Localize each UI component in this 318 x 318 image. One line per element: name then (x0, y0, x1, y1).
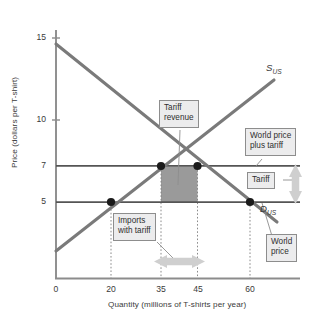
callout-world-price-plus-tariff-line2: plus tariff (250, 141, 291, 151)
callout-tariff-revenue: Tariff revenue (159, 100, 199, 128)
tariff-revenue-region (161, 167, 198, 203)
y-tick-15: 15 (28, 32, 46, 42)
x-tick-0: 0 (43, 284, 69, 294)
callout-world-price: World price (266, 234, 297, 262)
callout-world-price-line1: World (271, 237, 292, 247)
supply-curve-label: SUS (266, 62, 282, 75)
x-axis-title: Quantity (millions of T-shirts per year) (108, 300, 246, 309)
callout-tariff-revenue-line1: Tariff (164, 103, 194, 113)
tariff-diagram-svg (0, 0, 318, 318)
callout-world-price-plus-tariff-line1: World price (250, 131, 291, 141)
callout-world-price-line2: price (271, 247, 292, 257)
demand-curve-label-text: D (260, 203, 267, 214)
x-tick-35: 35 (148, 284, 174, 294)
plot-area (56, 30, 276, 278)
callout-imports-with-tariff: Imports with tariff (113, 213, 156, 241)
y-tick-5: 5 (28, 196, 46, 206)
y-tick-7: 7 (28, 160, 46, 170)
callout-world-price-plus-tariff: World price plus tariff (245, 128, 296, 156)
point-supply-with-tariff (157, 162, 165, 170)
callout-imports-with-tariff-line2: with tariff (118, 226, 151, 236)
point-demand-world-price (246, 198, 254, 206)
point-supply-world-price (107, 198, 115, 206)
y-tick-10: 10 (28, 114, 46, 124)
tariff-span-arrow (289, 164, 302, 204)
demand-curve-label-sub: US (267, 209, 276, 216)
x-tick-60: 60 (237, 284, 263, 294)
figure-canvas: Price (dollars per T-shirt) Quantity (mi… (0, 0, 318, 318)
callout-tariff: Tariff (247, 172, 275, 189)
callout-imports-with-tariff-line1: Imports (118, 216, 151, 226)
callout-tariff-line1: Tariff (252, 175, 270, 185)
x-tick-45: 45 (185, 284, 211, 294)
demand-curve-label: DUS (260, 203, 276, 216)
y-axis-title: Price (dollars per T-shirt) (10, 63, 19, 183)
supply-curve-label-sub: US (272, 68, 281, 75)
point-demand-with-tariff (193, 162, 201, 170)
callout-tariff-revenue-line2: revenue (164, 113, 194, 123)
x-tick-20: 20 (98, 284, 124, 294)
